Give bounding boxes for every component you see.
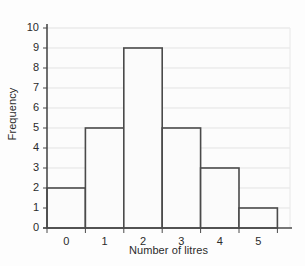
- y-tick-label: 1: [17, 201, 39, 213]
- x-tick-label: 4: [208, 235, 232, 247]
- x-tick-label: 2: [131, 235, 155, 247]
- x-tick-label: 1: [93, 235, 117, 247]
- histogram-bar: [124, 48, 162, 228]
- chart-canvas: [0, 0, 305, 266]
- histogram-bar: [162, 128, 200, 228]
- y-tick-label: 0: [17, 221, 39, 233]
- y-tick-label: 4: [17, 141, 39, 153]
- x-tick-label: 0: [54, 235, 78, 247]
- y-tick-label: 8: [17, 61, 39, 73]
- y-tick-label: 6: [17, 101, 39, 113]
- histogram-bar: [85, 128, 123, 228]
- y-tick-label: 3: [17, 161, 39, 173]
- y-tick-label: 9: [17, 41, 39, 53]
- y-tick-label: 7: [17, 81, 39, 93]
- x-tick-label: 5: [246, 235, 270, 247]
- y-tick-label: 5: [17, 121, 39, 133]
- y-tick-label: 2: [17, 181, 39, 193]
- x-tick-label: 3: [169, 235, 193, 247]
- histogram-bar: [201, 168, 239, 228]
- histogram-chart: Frequency Number of litres 012345678910 …: [0, 0, 305, 266]
- histogram-bar: [239, 208, 277, 228]
- y-tick-label: 10: [17, 21, 39, 33]
- histogram-bar: [47, 188, 85, 228]
